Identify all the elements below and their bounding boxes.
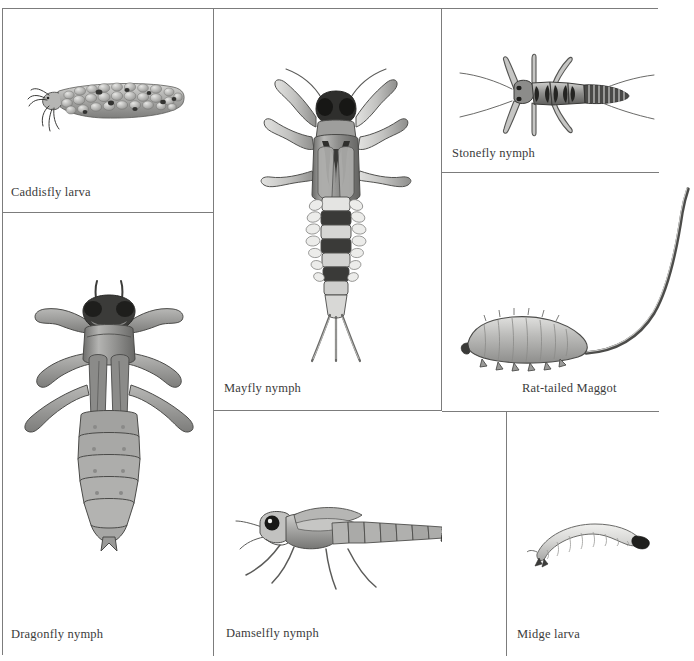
panel-caddisfly-larva[interactable]: Caddisfly larva <box>3 9 214 213</box>
panel-rat-tailed-maggot[interactable]: Rat-tailed Maggot <box>442 173 659 411</box>
caddisfly-larva-illustration <box>23 71 193 141</box>
caption-midge-larva: Midge larva <box>517 627 580 642</box>
rat-tailed-maggot-illustration <box>454 193 694 383</box>
identification-plate: Caddisfly larva <box>2 8 658 655</box>
panel-spacer <box>442 411 506 656</box>
panel-mayfly-nymph[interactable]: Mayfly nymph <box>214 9 442 411</box>
mayfly-nymph-illustration <box>256 65 416 365</box>
caption-damselfly-nymph: Damselfly nymph <box>226 626 319 641</box>
stonefly-nymph-illustration <box>456 51 656 139</box>
caption-mayfly-nymph: Mayfly nymph <box>224 381 301 396</box>
panel-midge-larva[interactable]: Midge larva <box>506 411 659 656</box>
caption-dragonfly-nymph: Dragonfly nymph <box>11 627 103 642</box>
caption-rat-tailed-maggot: Rat-tailed Maggot <box>522 381 617 396</box>
caption-stonefly-nymph: Stonefly nymph <box>452 146 535 161</box>
panel-dragonfly-nymph[interactable]: Dragonfly nymph <box>3 213 214 656</box>
dragonfly-nymph-illustration <box>9 275 209 545</box>
panel-stonefly-nymph[interactable]: Stonefly nymph <box>442 9 659 173</box>
midge-larva-illustration <box>525 512 655 572</box>
caption-caddisfly-larva: Caddisfly larva <box>11 185 91 200</box>
